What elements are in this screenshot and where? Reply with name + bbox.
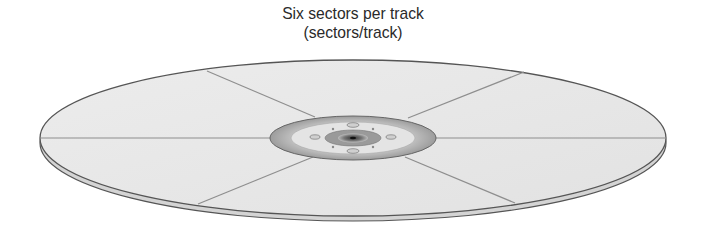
spindle-hub <box>270 116 436 160</box>
disk-platter-illustration <box>0 0 706 247</box>
